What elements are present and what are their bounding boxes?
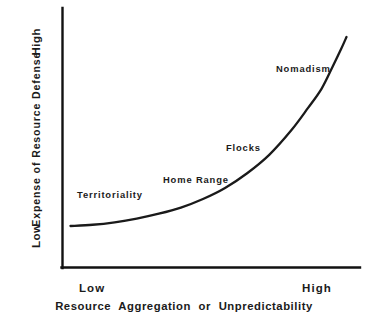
y-tick-label-high: High: [31, 11, 43, 73]
curve-annotation-nomadism: Nomadism: [276, 64, 331, 73]
x-axis-title: Resource Aggregation or Unpredictability: [0, 301, 368, 312]
curve-annotation-flocks: Flocks: [226, 143, 261, 152]
x-tick-label-high: High: [302, 283, 332, 295]
chart-container: Expense of Resource Defense High Low Low…: [0, 0, 368, 320]
curve-annotation-home-range: Home Range: [163, 175, 229, 184]
plot-area: [0, 0, 368, 320]
curve-annotation-territoriality: Territoriality: [77, 190, 143, 199]
x-tick-label-low: Low: [79, 283, 105, 295]
y-tick-label-low: Low: [31, 205, 43, 267]
